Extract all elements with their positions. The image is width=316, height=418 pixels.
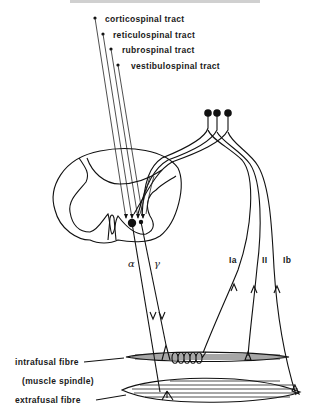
vestibulospinal-tract-line (118, 65, 143, 218)
ii-label: II (262, 255, 267, 265)
spindle-label: (muscle spindle) (22, 376, 94, 386)
intrafusal-label: intrafusal fibre (15, 357, 79, 367)
ib-label: Ib (283, 255, 291, 265)
gamma-motor-axon (141, 222, 166, 345)
alpha-label: α (128, 258, 135, 269)
ii-fibre (217, 132, 260, 356)
rubrospinal-tract-line (111, 49, 138, 218)
vestibulospinal-label: vestibulospinal tract (131, 61, 220, 71)
ii-central-process (138, 113, 217, 214)
extrafusal-outline (122, 378, 300, 402)
motor-efferents: α γ (128, 222, 166, 392)
spinal-motor-control-diagram: corticospinal tract reticulospinal tract… (0, 0, 316, 418)
ii-arrow (251, 286, 257, 293)
extrafusal-leader (96, 395, 126, 400)
rubrospinal-label: rubrospinal tract (122, 45, 195, 55)
alpha-arrow (150, 312, 156, 319)
annulospiral-ending (172, 352, 206, 363)
heading-fragment (70, 0, 260, 3)
corticospinal-label: corticospinal tract (105, 14, 184, 24)
muscle-labels: intrafusal fibre (muscle spindle) extraf… (15, 357, 126, 405)
descending-tracts: corticospinal tract reticulospinal tract… (93, 14, 220, 219)
motor-endplate (162, 391, 173, 400)
extrafusal-label: extrafusal fibre (15, 395, 81, 405)
extrafusal-fibre (122, 378, 300, 402)
intrafusal-fibre (126, 345, 289, 363)
gamma-label: γ (154, 258, 160, 269)
ia-label: Ia (229, 255, 237, 265)
ib-arrow (274, 286, 280, 293)
ia-fibre (203, 130, 251, 353)
intrafusal-leader (84, 358, 124, 362)
reticulospinal-label: reticulospinal tract (113, 30, 195, 40)
